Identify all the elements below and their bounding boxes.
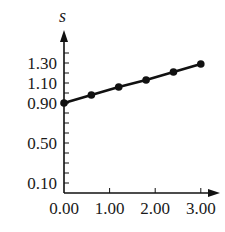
y-tick-label: 0.90: [27, 94, 57, 113]
y-tick-label: 0.50: [27, 134, 57, 153]
x-tick-label: 1.00: [95, 199, 125, 218]
data-point-marker: [142, 76, 150, 84]
x-axis-labels: 0.001.002.003.00: [49, 199, 216, 218]
y-axis-labels: 0.100.500.901.101.30: [27, 54, 57, 193]
y-axis-title: s: [59, 6, 66, 26]
y-tick-label: 1.30: [27, 54, 57, 73]
x-tick-label: 2.00: [140, 199, 170, 218]
y-axis-arrow-icon: [60, 30, 68, 42]
data-point-marker: [88, 91, 96, 99]
data-point-marker: [60, 99, 68, 107]
data-point-marker: [115, 83, 123, 91]
line-chart: s 0.100.500.901.101.30 0.001.002.003.00: [0, 0, 225, 232]
y-tick-label: 0.10: [27, 174, 57, 193]
y-tick-label: 1.10: [27, 74, 57, 93]
x-tick-label: 3.00: [186, 199, 216, 218]
x-tick-label: 0.00: [49, 199, 79, 218]
series-line: [64, 64, 201, 103]
data-point-marker: [170, 68, 178, 76]
x-axis-arrow-icon: [208, 189, 220, 197]
data-point-marker: [197, 60, 205, 68]
